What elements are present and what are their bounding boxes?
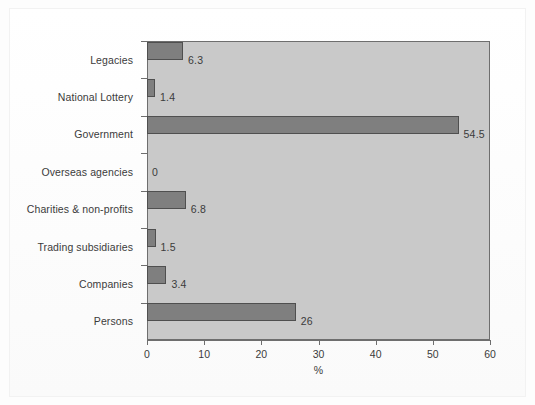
bar [147, 303, 296, 321]
x-axis-tick [490, 340, 491, 345]
category-axis-tick [141, 153, 147, 154]
category-label: Charities & non-profits [27, 203, 133, 215]
bar [147, 79, 155, 97]
x-axis-tick [261, 340, 262, 345]
bar-value-label: 1.4 [160, 91, 175, 103]
category-axis-labels: LegaciesNational LotteryGovernmentOverse… [0, 41, 141, 340]
category-axis-tick [141, 228, 147, 229]
bar-value-label: 3.4 [171, 278, 186, 290]
x-axis-tick-label: 30 [313, 348, 325, 360]
x-axis-tick [147, 340, 148, 345]
category-axis-tick [141, 41, 147, 42]
category-label: Persons [94, 315, 133, 327]
category-axis-tick [141, 265, 147, 266]
category-label: Trading subsidiaries [37, 241, 133, 253]
bar [147, 116, 459, 134]
x-axis-tick-label: 50 [427, 348, 439, 360]
category-label: Legacies [90, 54, 133, 66]
bar-value-label: 54.5 [464, 128, 485, 140]
x-axis-tick-label: 0 [144, 348, 150, 360]
bar [147, 42, 183, 60]
bar [147, 266, 166, 284]
bar-value-label: 6.3 [188, 54, 203, 66]
category-label: Overseas agencies [41, 166, 133, 178]
bar-value-label: 0 [152, 166, 158, 178]
x-axis-title: % [147, 364, 490, 376]
bar-value-label: 1.5 [161, 241, 176, 253]
category-label: Companies [79, 278, 133, 290]
x-axis-tick-label: 60 [484, 348, 496, 360]
x-axis-tick [433, 340, 434, 345]
category-axis-tick [141, 303, 147, 304]
x-axis-tick-label: 10 [198, 348, 210, 360]
bar [147, 229, 156, 247]
x-axis-tick-label: 40 [370, 348, 382, 360]
x-axis-tick-label: 20 [255, 348, 267, 360]
category-axis-tick [141, 191, 147, 192]
x-axis-tick [319, 340, 320, 345]
category-axis-tick [141, 116, 147, 117]
plot-area [147, 41, 490, 340]
bar-value-label: 6.8 [191, 203, 206, 215]
bar-value-label: 26 [301, 315, 313, 327]
category-label: National Lottery [58, 91, 133, 103]
category-label: Government [74, 128, 133, 140]
bar [147, 191, 186, 209]
figure: 6.31.454.506.81.53.426 LegaciesNational … [0, 0, 535, 405]
category-axis-tick [141, 78, 147, 79]
x-axis-tick [204, 340, 205, 345]
x-axis-tick [376, 340, 377, 345]
